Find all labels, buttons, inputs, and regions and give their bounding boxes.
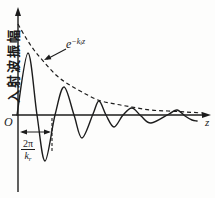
period-arrowhead-left bbox=[20, 129, 27, 134]
envelope-curve bbox=[18, 24, 202, 113]
x-axis-label: z bbox=[205, 116, 209, 128]
diagram-svg bbox=[0, 0, 215, 198]
period-label-den-subscript: r bbox=[29, 155, 32, 163]
y-axis-label: 入射波振幅 bbox=[3, 28, 22, 103]
envelope-label-exp-variable: z bbox=[82, 37, 85, 46]
period-label-denominator: kr bbox=[21, 149, 34, 165]
annotation-arrowhead bbox=[44, 55, 51, 61]
figure-canvas: 入射波振幅 O z e−kiz 2π kr bbox=[0, 0, 215, 198]
period-label-numerator: 2π bbox=[17, 138, 39, 149]
envelope-label-exp: −k bbox=[71, 37, 80, 46]
y-axis-arrowhead bbox=[15, 7, 21, 16]
period-arrowhead-right bbox=[44, 129, 51, 134]
envelope-label: e−kiz bbox=[66, 37, 85, 52]
origin-label: O bbox=[4, 115, 13, 130]
wave-curve bbox=[17, 53, 197, 161]
period-label: 2π kr bbox=[17, 138, 39, 165]
